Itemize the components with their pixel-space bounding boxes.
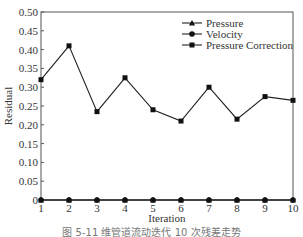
square-marker xyxy=(179,119,184,124)
x-tick-label: 1 xyxy=(38,202,44,214)
square-marker xyxy=(67,43,72,48)
circle-marker xyxy=(290,197,296,203)
y-tick-label: 0.05 xyxy=(19,175,39,187)
y-tick-label: 0.10 xyxy=(19,156,39,168)
circle-marker xyxy=(189,31,195,37)
x-tick-label: 2 xyxy=(66,202,72,214)
y-tick-label: 0.35 xyxy=(19,62,39,74)
circle-marker xyxy=(38,197,44,203)
legend-item: Pressure Correction xyxy=(182,39,294,51)
circle-marker xyxy=(150,197,156,203)
circle-marker xyxy=(178,197,184,203)
y-axis: 00.050.100.150.200.250.300.350.400.450.5… xyxy=(19,6,44,206)
series-pressure-correction xyxy=(39,43,296,123)
y-tick-label: 0.15 xyxy=(19,138,39,150)
y-tick-label: 0.30 xyxy=(19,81,39,93)
x-tick-label: 9 xyxy=(262,202,268,214)
circle-marker xyxy=(66,197,72,203)
square-marker xyxy=(39,77,44,82)
square-marker xyxy=(123,75,128,80)
square-marker xyxy=(207,85,212,90)
square-marker xyxy=(291,98,296,103)
square-marker xyxy=(95,109,100,114)
x-tick-label: 8 xyxy=(234,202,240,214)
x-tick-label: 7 xyxy=(206,202,212,214)
square-marker xyxy=(263,94,268,99)
y-tick-label: 0.25 xyxy=(19,100,39,112)
circle-marker xyxy=(234,197,240,203)
line-chart: 00.050.100.150.200.250.300.350.400.450.5… xyxy=(0,0,303,237)
legend-label: Pressure Correction xyxy=(206,39,294,51)
x-axis-title: Iteration xyxy=(148,212,186,224)
square-marker xyxy=(235,117,240,122)
x-tick-label: 10 xyxy=(288,202,300,214)
square-marker xyxy=(190,43,195,48)
figure-caption: 图 5-11 维管道流动迭代 10 次残差走势 xyxy=(0,224,303,237)
x-tick-label: 3 xyxy=(94,202,100,214)
y-tick-label: 0.40 xyxy=(19,44,39,56)
series-velocity xyxy=(38,197,296,203)
y-axis-title: Residual xyxy=(2,87,14,126)
legend: PressureVelocityPressure Correction xyxy=(182,17,294,51)
series-layer xyxy=(38,43,296,202)
circle-marker xyxy=(94,197,100,203)
circle-marker xyxy=(122,197,128,203)
circle-marker xyxy=(206,197,212,203)
circle-marker xyxy=(262,197,268,203)
y-tick-label: 0.45 xyxy=(19,25,39,37)
square-marker xyxy=(151,107,156,112)
y-tick-label: 0.50 xyxy=(19,6,39,18)
x-tick-label: 4 xyxy=(122,202,128,214)
y-tick-label: 0.20 xyxy=(19,119,39,131)
